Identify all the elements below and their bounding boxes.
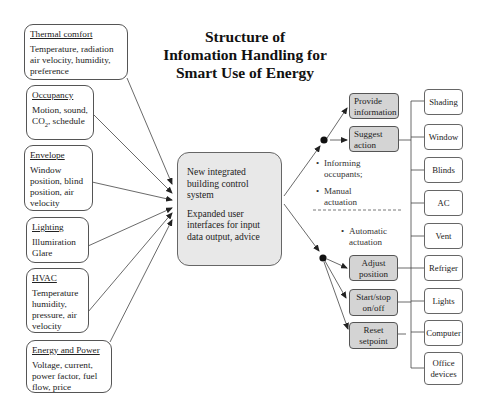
device-lights: Lights [424, 288, 463, 314]
input-text: Motion, sound, CO2, schedule [32, 105, 88, 126]
action-suggest-action: Suggest action [349, 126, 399, 152]
input-text: Illumiration Glare [32, 237, 76, 258]
device-shading: Shading [424, 89, 463, 115]
input-heading: Occupancy [32, 90, 88, 101]
device-refriger: Refriger [424, 255, 463, 281]
title-line-3: Smart Use of Energy [150, 64, 340, 82]
input-heading: Thermal comfort [30, 29, 122, 40]
input-occupancy: Occupancy Motion, sound, CO2, schedule [26, 85, 94, 140]
bullet-automatic-actuation: •Automatic actuation [349, 226, 404, 248]
input-text: Voltage, current, power factor, fuel flo… [32, 360, 97, 392]
device-window: Window [424, 124, 463, 150]
input-heading: Lighting [32, 222, 83, 233]
central-control-system: New integrated building control system E… [177, 152, 282, 266]
device-office-devices: Office devices [424, 352, 463, 385]
device-ac: AC [424, 190, 463, 216]
input-energy-and-power: Energy and Power Voltage, current, power… [26, 340, 112, 393]
input-heading: Energy and Power [32, 345, 106, 356]
action-adjust-position: Adjust position [349, 255, 398, 281]
action-reset-setpoint: Reset setpoint [349, 322, 398, 349]
diagram-title: Structure of Infomation Handling for Sma… [150, 28, 340, 82]
title-line-2: Infomation Handling for [150, 46, 340, 64]
input-thermal-comfort: Thermal comfort Temperature, radiation a… [24, 24, 128, 80]
input-hvac: HVAC Temperature humidity, pressure, air… [26, 268, 89, 333]
input-envelope: Envelope Window position, blind position… [24, 145, 93, 211]
input-text: Temperature, radiation air velocity, hum… [30, 44, 114, 76]
central-line-1: New integrated building control system [187, 166, 275, 201]
device-blinds: Blinds [424, 157, 463, 183]
input-text: Window position, blind position, air vel… [30, 165, 83, 208]
input-heading: Envelope [30, 150, 87, 161]
central-line-2: Expanded user interfaces for input data … [187, 208, 275, 243]
action-start-stop: Start/stop on/off [349, 289, 398, 316]
device-vent: Vent [424, 223, 463, 249]
input-lighting: Lighting Illumiration Glare [26, 217, 89, 263]
input-heading: HVAC [32, 273, 83, 284]
action-provide-information: Provide information [349, 93, 399, 119]
bullet-informing-occupants: •Informing occupants; [316, 158, 376, 180]
title-line-1: Structure of [150, 28, 340, 46]
input-text: Temperature humidity, pressure, air velo… [32, 288, 78, 331]
device-computer: Computer [424, 320, 463, 346]
bullet-manual-actuation: •Manual actuation [316, 186, 376, 208]
